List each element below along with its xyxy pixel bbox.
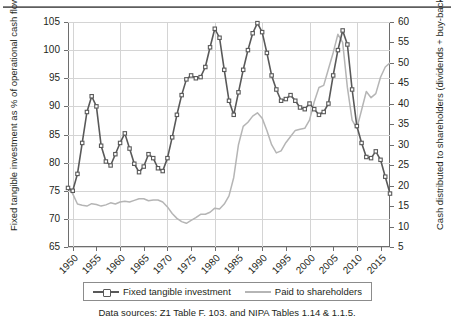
right-axis-tick-label: 10: [398, 222, 424, 232]
data-point-marker: [242, 68, 245, 71]
data-point-marker: [71, 189, 74, 192]
legend-item-investment[interactable]: Fixed tangible investment: [93, 287, 231, 297]
chart-legend: Fixed tangible investment Paid to shareh…: [83, 282, 372, 301]
data-point-marker: [166, 156, 169, 159]
x-axis-tick-label: 1985: [220, 253, 245, 278]
data-point-marker: [331, 74, 334, 77]
x-axis-tick-label: 1990: [244, 253, 269, 278]
legend-swatch-shareholders: [245, 287, 271, 296]
data-point-marker: [294, 99, 297, 102]
right-axis-tickmark: [390, 227, 394, 228]
left-axis-tick-label: 105: [34, 17, 60, 27]
left-axis-tick-label: 65: [34, 242, 60, 252]
legend-label-investment: Fixed tangible investment: [123, 287, 231, 297]
x-axis-tick-label: 1965: [125, 253, 150, 278]
source-note: Data sources: Z1 Table F. 103. and NIPA …: [0, 307, 454, 316]
data-point-marker: [298, 106, 301, 109]
data-point-marker: [260, 30, 263, 33]
data-point-marker: [128, 147, 131, 150]
left-axis-tick-label: 80: [34, 158, 60, 168]
right-axis-tickmark: [390, 104, 394, 105]
data-point-marker: [123, 132, 126, 135]
data-point-marker: [289, 93, 292, 96]
data-point-marker: [365, 155, 368, 158]
data-point-marker: [384, 175, 387, 178]
x-axis-tickmark: [238, 247, 239, 251]
data-point-marker: [204, 65, 207, 68]
series-line: [68, 34, 390, 223]
right-axis-tick-label: 40: [398, 99, 424, 109]
data-point-marker: [104, 160, 107, 163]
data-point-marker: [170, 136, 173, 139]
data-point-marker: [369, 156, 372, 159]
x-axis-tickmark: [286, 247, 287, 251]
right-axis-tick-label: 15: [398, 201, 424, 211]
x-axis-tickmark: [262, 247, 263, 251]
left-axis-tickmark: [64, 135, 68, 136]
right-axis-tickmark: [390, 42, 394, 43]
left-axis-tick-label: 75: [34, 186, 60, 196]
right-axis-tick-label: 50: [398, 58, 424, 68]
data-point-marker: [265, 51, 268, 54]
data-point-marker: [156, 167, 159, 170]
data-point-marker: [336, 48, 339, 51]
x-axis-tickmark: [73, 247, 74, 251]
x-axis-tickmark: [120, 247, 121, 251]
data-point-marker: [114, 152, 117, 155]
data-point-marker: [208, 46, 211, 49]
x-axis-tick-label: 2000: [291, 253, 316, 278]
data-point-marker: [284, 97, 287, 100]
x-axis-tickmark: [191, 247, 192, 251]
x-axis-tick-label: 2015: [362, 253, 387, 278]
x-axis-tickmark: [96, 247, 97, 251]
data-point-marker: [109, 164, 112, 167]
x-axis-tickmark: [357, 247, 358, 251]
left-axis-tickmark: [64, 78, 68, 79]
right-axis-title: Cash distributed to shareholders (divide…: [434, 10, 446, 230]
data-point-marker: [227, 99, 230, 102]
right-axis-tick-label: 20: [398, 181, 424, 191]
left-axis-tickmark: [64, 191, 68, 192]
right-axis-tickmark: [390, 165, 394, 166]
data-point-marker: [379, 158, 382, 161]
data-point-marker: [66, 186, 69, 189]
x-axis-tick-label: 1975: [173, 253, 198, 278]
x-axis-tickmark: [333, 247, 334, 251]
data-point-marker: [246, 48, 249, 51]
series-lines: [68, 22, 390, 247]
left-axis-tick-label: 100: [34, 45, 60, 55]
x-axis-tickmark: [381, 247, 382, 251]
data-point-marker: [81, 141, 84, 144]
data-point-marker: [256, 21, 259, 24]
left-axis-tick-label: 95: [34, 73, 60, 83]
legend-item-shareholders[interactable]: Paid to shareholders: [245, 287, 362, 297]
legend-label-shareholders: Paid to shareholders: [275, 287, 362, 297]
data-point-marker: [142, 165, 145, 168]
right-axis-tickmark: [390, 83, 394, 84]
right-axis-tick-label: 55: [398, 37, 424, 47]
data-point-marker: [161, 169, 164, 172]
data-point-marker: [213, 27, 216, 30]
data-point-marker: [194, 77, 197, 80]
x-axis-tickmark: [144, 247, 145, 251]
data-point-marker: [350, 88, 353, 91]
data-point-marker: [237, 91, 240, 94]
right-axis-tick-label: 35: [398, 119, 424, 129]
series-line: [68, 23, 390, 193]
x-axis-tick-label: 1995: [267, 253, 292, 278]
gridline-horizontal: [68, 247, 390, 248]
x-axis-tick-label: 1970: [149, 253, 174, 278]
data-point-marker: [76, 172, 79, 175]
x-axis-tickmark: [215, 247, 216, 251]
data-point-marker: [199, 75, 202, 78]
data-point-marker: [346, 43, 349, 46]
right-axis-tick-label: 45: [398, 78, 424, 88]
x-axis-tick-label: 1980: [196, 253, 221, 278]
right-axis-tick-label: 30: [398, 140, 424, 150]
data-point-marker: [189, 74, 192, 77]
data-point-marker: [355, 124, 358, 127]
data-point-marker: [279, 99, 282, 102]
right-axis-tickmark: [390, 63, 394, 64]
data-point-marker: [322, 110, 325, 113]
data-point-marker: [99, 144, 102, 147]
